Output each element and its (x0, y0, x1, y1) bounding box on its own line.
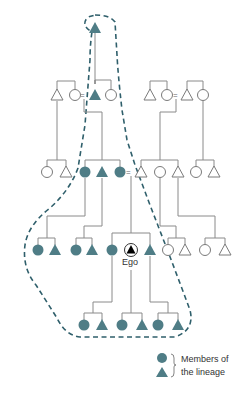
male-icon (181, 89, 193, 100)
lineage-male-icon (49, 244, 61, 255)
female-icon (163, 245, 174, 256)
male-icon (51, 89, 63, 100)
legend-text-line2: the lineage (181, 367, 225, 377)
female-icon (200, 245, 211, 256)
female-icon (106, 90, 117, 101)
female-icon (70, 90, 81, 101)
marriage-sign: = (173, 91, 178, 100)
male-icon (60, 166, 72, 177)
female-icon (162, 90, 173, 101)
lineage-male-icon (86, 244, 98, 255)
kin-symbols (33, 22, 232, 331)
legend-triangle-icon (156, 367, 168, 377)
lineage-male-icon (89, 22, 101, 33)
marriage-sign: = (126, 168, 131, 177)
lineage-male-icon (136, 319, 148, 330)
ego-icon (125, 244, 138, 257)
lineage-female-icon (80, 167, 91, 178)
legend-text-line1: Members of (181, 354, 229, 364)
male-icon (208, 166, 220, 177)
legend: Members of the lineage (156, 353, 229, 377)
lineage-female-icon (71, 245, 82, 256)
lineage-male-icon (89, 89, 101, 100)
lineage-female-icon (117, 320, 128, 331)
lineage-male-icon (96, 319, 108, 330)
male-icon (219, 244, 231, 255)
female-icon (191, 167, 202, 178)
lineage-female-icon (107, 245, 118, 256)
female-icon (198, 90, 209, 101)
lineage-diagram: = = = Ego Members of the lineage (0, 0, 247, 398)
lineage-male-icon (172, 319, 184, 330)
female-icon (155, 167, 166, 178)
male-icon (172, 166, 184, 177)
male-icon (179, 244, 191, 255)
lineage-female-icon (153, 320, 164, 331)
ego-label: Ego (122, 257, 138, 267)
lineage-female-icon (115, 167, 126, 178)
lineage-male-icon (144, 244, 156, 255)
male-icon (144, 89, 156, 100)
lineage-female-icon (33, 245, 44, 256)
female-icon (42, 167, 53, 178)
lineage-male-icon (96, 166, 108, 177)
lineage-female-icon (79, 320, 90, 331)
legend-brace-icon (171, 354, 176, 377)
legend-circle-icon (157, 353, 167, 363)
